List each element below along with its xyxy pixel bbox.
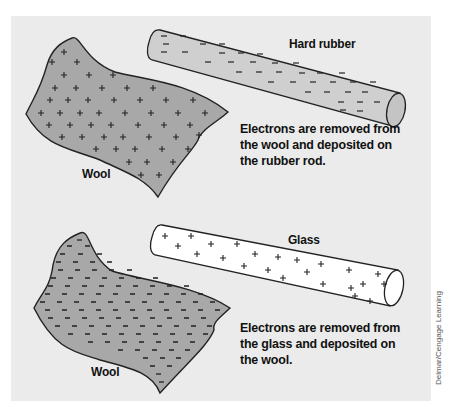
glass-label: Glass [288, 232, 320, 247]
caption-top-line-1: Electrons are removed from [240, 121, 400, 137]
caption-bottom-line-1: Electrons are removed from [240, 320, 400, 336]
wool-label-top: Wool [82, 166, 110, 181]
hard-rubber-label: Hard rubber [289, 36, 355, 51]
caption-top-line-3: the rubber rod. [240, 153, 400, 169]
caption-bottom: Electrons are removed from the glass and… [240, 320, 400, 368]
caption-top: Electrons are removed from the wool and … [240, 121, 400, 169]
caption-top-line-2: the wool and deposited on [240, 137, 400, 153]
caption-bottom-line-3: the wool. [240, 352, 400, 368]
caption-bottom-line-2: the glass and deposited on [240, 336, 400, 352]
image-credit: Delmar/Cengage Learning [434, 291, 443, 385]
wool-label-bottom: Wool [91, 364, 119, 379]
